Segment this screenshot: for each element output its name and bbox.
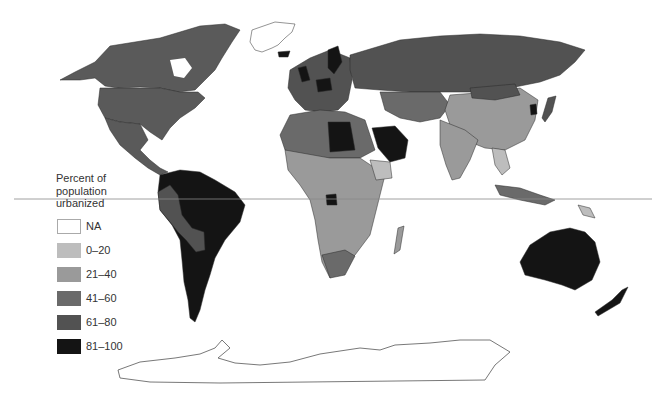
australia	[520, 228, 600, 290]
southeast-asia	[492, 148, 510, 175]
japan	[542, 96, 556, 122]
legend-swatch	[57, 219, 81, 234]
legend-label: 61–80	[86, 316, 117, 328]
germany	[316, 78, 332, 92]
legend-label: 81–100	[86, 340, 123, 352]
legend: Percent of population urbanized NA 0–20 …	[56, 172, 156, 210]
antarctica	[118, 340, 510, 383]
greenland	[250, 22, 295, 52]
iceland	[278, 51, 290, 57]
korea	[530, 104, 537, 115]
indonesia	[495, 185, 555, 205]
canada-alaska	[60, 24, 240, 92]
legend-swatch	[57, 339, 81, 354]
papua-new-guinea	[578, 205, 595, 218]
legend-title-line: urbanized	[56, 197, 156, 210]
legend-label: 0–20	[86, 244, 110, 256]
libya	[328, 122, 355, 152]
legend-swatch	[57, 291, 81, 306]
legend-title: Percent of population urbanized	[56, 172, 156, 210]
legend-item-81-100: 81–100	[57, 339, 157, 355]
legend-title-line: population	[56, 185, 156, 198]
legend-item-61-80: 61–80	[57, 315, 157, 331]
madagascar	[394, 226, 404, 254]
legend-item-na: NA	[57, 219, 157, 235]
legend-label: 21–40	[86, 268, 117, 280]
legend-label: NA	[86, 220, 101, 232]
legend-label: 41–60	[86, 292, 117, 304]
legend-swatch	[57, 315, 81, 330]
legend-item-0-20: 0–20	[57, 243, 157, 259]
central-asia	[380, 92, 450, 122]
legend-swatch	[57, 267, 81, 282]
legend-title-line: Percent of	[56, 172, 156, 185]
legend-item-41-60: 41–60	[57, 291, 157, 307]
legend-item-21-40: 21–40	[57, 267, 157, 283]
russia	[350, 34, 585, 92]
saudi-arabia	[372, 126, 408, 162]
south-africa	[322, 250, 355, 278]
new-zealand	[595, 287, 628, 316]
gabon	[326, 194, 337, 205]
legend-swatch	[57, 243, 81, 258]
